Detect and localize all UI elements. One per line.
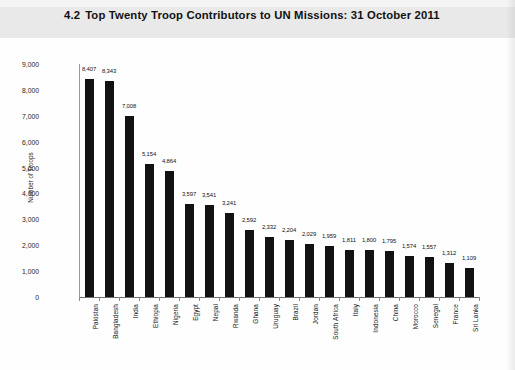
y-axis-tick-labels: 01,0002,0003,0004,0005,0006,0007,0008,00…	[0, 38, 80, 370]
bar-slot: 1,574	[399, 64, 419, 297]
bar-slot: 8,407	[79, 64, 99, 297]
bar-france	[445, 263, 454, 297]
bar-morocco	[405, 256, 414, 297]
bar-value-label: 3,541	[202, 192, 216, 198]
x-axis-label-nigeria: Nigeria	[172, 304, 179, 325]
bar-egypt	[185, 204, 194, 297]
bar-value-label: 4,864	[162, 158, 176, 164]
bar-sri-lanka	[465, 268, 474, 297]
bar-nigeria	[165, 171, 174, 297]
x-axis-label-indonesia: Indonesia	[372, 304, 379, 333]
x-axis-tick	[139, 297, 140, 301]
bar-pakistan	[85, 79, 94, 297]
bar-value-label: 2,029	[302, 231, 316, 237]
section-title-text: Top Twenty Troop Contributors to UN Miss…	[85, 9, 440, 21]
bar-slot: 1,959	[319, 64, 339, 297]
x-axis-tick	[379, 297, 380, 301]
bar-brazil	[285, 240, 294, 297]
bar-value-label: 1,959	[322, 233, 336, 239]
page-canvas: 4.2Top Twenty Troop Contributors to UN M…	[0, 0, 515, 370]
x-axis-label-senegal: Senegal	[432, 304, 439, 328]
bar-slot: 8,343	[99, 64, 119, 297]
bar-senegal	[425, 257, 434, 297]
bar-south-africa	[325, 246, 334, 297]
y-axis-tick-9000: 9,000	[22, 61, 39, 68]
x-axis-tick	[279, 297, 280, 301]
x-axis-tick	[339, 297, 340, 301]
x-axis-label-egypt: Egypt	[192, 304, 199, 321]
bar-series: 8,4078,3437,0085,1544,8643,5973,5413,241…	[79, 64, 479, 297]
x-axis-tick	[439, 297, 440, 301]
bar-slot: 3,597	[179, 64, 199, 297]
bar-slot: 5,154	[139, 64, 159, 297]
bar-slot: 1,312	[439, 64, 459, 297]
bar-value-label: 3,241	[222, 200, 236, 206]
x-axis-tick	[159, 297, 160, 301]
bar-uruguay	[265, 237, 274, 297]
y-axis-tick-7000: 7,000	[22, 112, 39, 119]
bar-china	[385, 251, 394, 297]
x-axis-label-pakistan: Pakistan	[92, 304, 99, 329]
x-axis-label-jordan: Jordan	[312, 304, 319, 324]
x-axis-tick	[199, 297, 200, 301]
bar-slot: 1,811	[339, 64, 359, 297]
x-axis-tick	[299, 297, 300, 301]
bar-ethiopia	[145, 164, 154, 297]
chart-plot-area: Number of Troops 01,0002,0003,0004,0005,…	[0, 38, 515, 370]
x-axis-label-ethiopia: Ethiopia	[152, 304, 159, 328]
x-axis-tick	[359, 297, 360, 301]
bar-value-label: 2,592	[242, 217, 256, 223]
bar-italy	[345, 250, 354, 297]
y-axis-tick-3000: 3,000	[22, 216, 39, 223]
x-axis-label-south-africa: South Africa	[332, 304, 339, 340]
bar-slot: 1,795	[379, 64, 399, 297]
page-title: 4.2Top Twenty Troop Contributors to UN M…	[64, 9, 440, 21]
x-axis-label-china: China	[392, 304, 399, 321]
bar-value-label: 2,204	[282, 227, 296, 233]
bar-ghana	[245, 230, 254, 297]
bar-slot: 7,008	[119, 64, 139, 297]
x-axis-tick	[319, 297, 320, 301]
x-axis-tick	[259, 297, 260, 301]
y-axis-tick-5000: 5,000	[22, 164, 39, 171]
bar-slot: 2,592	[239, 64, 259, 297]
bar-value-label: 8,407	[82, 66, 96, 72]
bar-slot: 2,029	[299, 64, 319, 297]
section-number: 4.2	[64, 9, 80, 21]
bar-slot: 4,864	[159, 64, 179, 297]
x-axis-tick	[179, 297, 180, 301]
bar-value-label: 2,332	[262, 224, 276, 230]
y-axis-tick-2000: 2,000	[22, 242, 39, 249]
x-axis-label-italy: Italy	[352, 304, 359, 316]
y-axis-tick-8000: 8,000	[22, 86, 39, 93]
bar-jordan	[305, 244, 314, 297]
x-axis-label-uruguay: Uruguay	[272, 304, 279, 329]
x-axis-label-morocco: Morocco	[412, 304, 419, 329]
bar-slot: 3,241	[219, 64, 239, 297]
bar-value-label: 7,008	[122, 103, 136, 109]
x-axis-label-france: France	[452, 304, 459, 325]
x-axis-label-brazil: Brazil	[292, 304, 299, 321]
bar-india	[125, 116, 134, 297]
x-axis-label-india: India	[132, 304, 139, 318]
x-axis-tick	[119, 297, 120, 301]
y-axis-tick-6000: 6,000	[22, 138, 39, 145]
bar-value-label: 1,811	[342, 237, 356, 243]
bar-value-label: 1,800	[362, 237, 376, 243]
x-axis-tick	[399, 297, 400, 301]
x-axis-label-ghana: Ghana	[252, 304, 259, 324]
bar-slot: 1,109	[459, 64, 479, 297]
bar-value-label: 3,597	[182, 191, 196, 197]
bar-slot: 1,800	[359, 64, 379, 297]
bar-slot: 2,204	[279, 64, 299, 297]
x-axis-label-nepal: Nepal	[212, 304, 219, 321]
x-axis-label-sri-lanka: Sri Lanka	[472, 304, 479, 332]
x-axis-tick	[99, 297, 100, 301]
x-axis-tick	[459, 297, 460, 301]
bar-bangladesh	[105, 81, 114, 297]
bar-nepal	[205, 205, 214, 297]
x-axis-tick	[479, 297, 480, 301]
bar-slot: 3,541	[199, 64, 219, 297]
bar-indonesia	[365, 250, 374, 297]
bar-value-label: 1,574	[402, 243, 416, 249]
